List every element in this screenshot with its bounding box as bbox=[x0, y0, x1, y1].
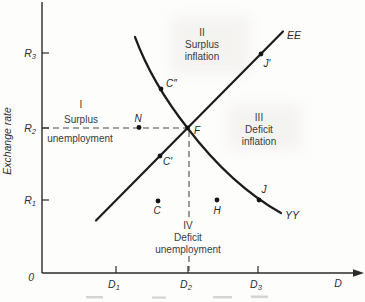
zone1-numeral: I bbox=[80, 99, 83, 110]
zone2-numeral: II bbox=[199, 27, 205, 38]
origin-label: 0 bbox=[28, 271, 34, 283]
point-label-j: J bbox=[261, 184, 268, 195]
point-c-prime bbox=[158, 154, 163, 159]
point-c-doubleprime bbox=[159, 87, 164, 92]
diagram-canvas: Exchange rate R3 R2 R1 0 D1 D2 D3 D EE Y… bbox=[0, 0, 365, 302]
ee-curve-label: EE bbox=[287, 29, 302, 41]
zone-label-deficit-unemployment: IV Deficit unemployment bbox=[155, 220, 221, 255]
zone3-word2: inflation bbox=[242, 136, 276, 147]
x-axis-arrowhead bbox=[353, 269, 364, 277]
zone4-word1: Deficit bbox=[174, 232, 202, 243]
zone1-word2: unemployment bbox=[47, 133, 113, 144]
point-label-f: F bbox=[194, 125, 201, 136]
point-label-h: H bbox=[213, 205, 221, 216]
x-axis-title: D bbox=[334, 277, 342, 289]
zone1-word1: Surplus bbox=[64, 114, 98, 125]
y-tick-label-R2: R2 bbox=[24, 122, 37, 136]
yy-curve-label: YY bbox=[285, 209, 300, 221]
point-j-prime bbox=[259, 52, 264, 57]
cropped-caption-fragment bbox=[86, 296, 268, 299]
point-label-c-prime: C′ bbox=[163, 156, 173, 167]
x-tick-label-D3: D3 bbox=[250, 278, 263, 292]
zone3-numeral: III bbox=[255, 112, 263, 123]
point-label-c-doubleprime: C″ bbox=[166, 78, 177, 89]
swan-diagram-figure: Exchange rate R3 R2 R1 0 D1 D2 D3 D EE Y… bbox=[0, 0, 365, 302]
x-tick-label-D2: D2 bbox=[180, 278, 193, 292]
y-axis-title: Exchange rate bbox=[1, 107, 13, 175]
y-tick-label-R1: R1 bbox=[24, 194, 36, 208]
y-tick-label-R3: R3 bbox=[24, 47, 37, 61]
x-tick-label-D1: D1 bbox=[108, 278, 120, 292]
zone3-word1: Deficit bbox=[245, 124, 273, 135]
point-label-c: C bbox=[153, 205, 161, 216]
zone4-numeral: IV bbox=[183, 220, 193, 231]
point-j bbox=[257, 198, 262, 203]
zone-label-surplus-unemployment: I Surplus unemployment bbox=[47, 99, 113, 144]
zone4-word2: unemployment bbox=[155, 244, 221, 255]
point-label-j-prime: J′ bbox=[263, 58, 272, 69]
point-c bbox=[156, 199, 161, 204]
zone2-word1: Surplus bbox=[185, 39, 219, 50]
zone2-word2: inflation bbox=[185, 51, 219, 62]
point-f bbox=[185, 126, 190, 131]
point-label-n: N bbox=[134, 113, 142, 124]
point-n bbox=[137, 125, 142, 130]
point-h bbox=[215, 198, 220, 203]
